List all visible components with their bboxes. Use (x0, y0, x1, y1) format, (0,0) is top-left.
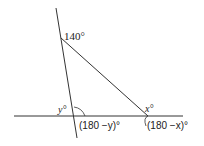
left-supplement-label: (180 −y)° (79, 120, 120, 131)
steep-transversal-line (56, 8, 77, 138)
angle-arc-left (74, 107, 85, 116)
left-angle-label: y° (57, 104, 66, 115)
geometry-diagram: 140° y° x° (180 −y)° (180 −x)° (0, 0, 204, 146)
right-supplement-label: (180 −x)° (147, 120, 188, 131)
apex-angle-label: 140° (64, 30, 85, 42)
slanted-transversal-line (61, 38, 148, 116)
right-angle-label: x° (144, 103, 153, 114)
